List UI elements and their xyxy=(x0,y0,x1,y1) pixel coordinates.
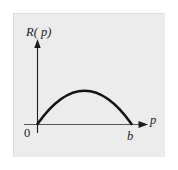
revenue-curve xyxy=(38,91,132,124)
figure-container: R( p) p 0 b xyxy=(0,0,178,170)
x-endpoint-label-b: b xyxy=(127,130,133,143)
origin-label: 0 xyxy=(24,127,30,140)
y-axis-arrowhead xyxy=(34,39,40,48)
x-axis-label: p xyxy=(150,114,156,127)
y-axis-label: R( p) xyxy=(26,26,51,39)
x-axis-arrowhead xyxy=(139,121,149,128)
